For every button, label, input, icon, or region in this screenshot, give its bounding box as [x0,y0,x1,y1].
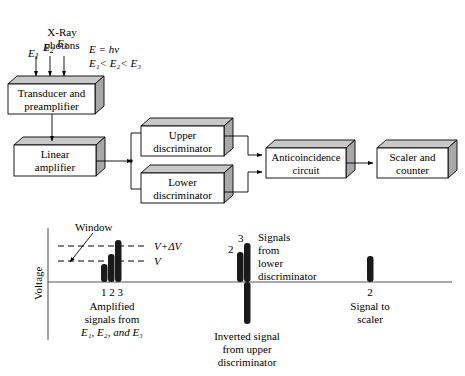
block-label-anticoincidence: Anticoincidencecircuit [265,151,347,177]
pulse-label-lower-3: 3 [238,232,244,244]
caption-inverted-l3: discriminator [218,356,277,368]
pulse-number-scaler: 2 [367,286,373,298]
pulse-lower-3 [244,243,251,282]
pulse-2 [108,254,115,282]
energy-label-e1: E1 [28,47,39,63]
pulse-lower-2 [237,252,244,282]
pulse-numbers-amplified: 1 2 3 [101,286,123,298]
pulse-group-discriminator [237,243,251,324]
block-label-lower-discriminator: Lowerdiscriminator [141,176,224,202]
caption-scaler-l2: scaler [357,313,383,325]
pulse-scaler-2 [367,256,374,282]
caption-amplified-l3: E₁, E₂, and E₃ [81,326,143,338]
pulse-inverted-upper [244,282,251,324]
caption-lower-discriminator-l2: from [258,244,279,256]
block-label-transducer: Transducer andpreamplifier [8,87,95,113]
caption-amplified-l1: Amplified [89,300,134,312]
caption-scaler-l1: Signal to [350,300,389,312]
figure-root: X-Ray photons E1 E2 E3 E = hν E₁< E₂< E₃… [0,0,465,376]
caption-inverted-l1: Inverted signal [214,330,280,342]
pulse-group-scaler [367,256,374,282]
threshold-label-lower: V [154,255,161,267]
energy-label-e3: E3 [57,37,68,53]
caption-lower-discriminator-l4: discriminator [258,270,317,282]
pulse-3 [115,240,122,282]
window-pointer-arrow [70,233,93,262]
pulse-label-lower-2: 2 [228,243,234,255]
photon-arrows [36,56,64,76]
diagram-canvas [0,0,465,376]
caption-inverted-l2: from upper [222,343,271,355]
caption-lower-discriminator-l1: Signals [258,231,290,243]
block-label-upper-discriminator: Upperdiscriminator [141,129,224,155]
energy-label-e2: E2 [43,41,54,57]
block-label-scaler: Scaler andcounter [377,151,448,177]
graph-y-axis-label: Voltage [32,267,44,300]
equation-energy-order: E₁< E₂< E₃ [89,57,141,69]
block-label-linear-amplifier: Linearamplifier [14,148,96,174]
window-label: Window [75,221,112,233]
threshold-label-upper: V+ΔV [154,240,181,252]
caption-amplified-l2: signals from [85,313,140,325]
pulse-1 [101,264,108,282]
equation-energy: E = hν [89,43,119,55]
caption-lower-discriminator-l3: lower [258,257,283,269]
